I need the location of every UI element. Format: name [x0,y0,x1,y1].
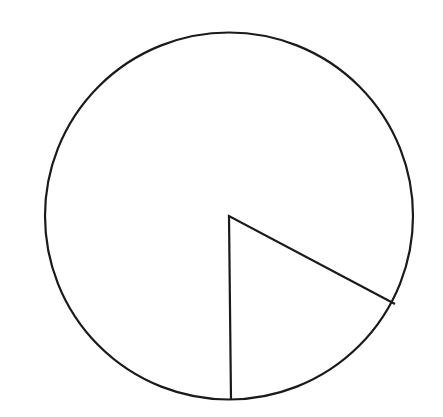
diagram-canvas [0,0,443,417]
sector-radii [229,216,395,400]
circle-sector-figure [0,0,443,417]
